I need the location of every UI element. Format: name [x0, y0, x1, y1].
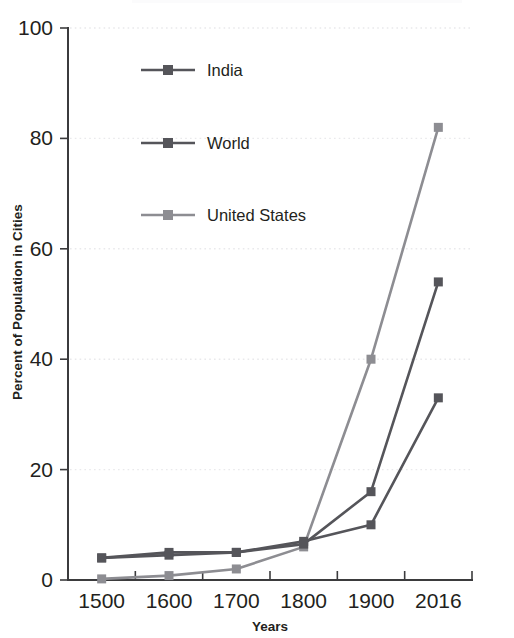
series-line-india	[102, 398, 439, 558]
chart-figure: 020406080100 150016001700180019002016 Pe…	[0, 0, 514, 638]
series-line-united-states	[102, 127, 439, 579]
series-line-world	[102, 282, 439, 558]
data-point-marker	[434, 393, 443, 402]
y-tick-label: 100	[18, 16, 53, 39]
data-point-marker	[434, 123, 443, 132]
data-point-marker	[434, 277, 443, 286]
y-tick-label: 0	[41, 568, 53, 591]
data-point-marker	[232, 564, 241, 573]
legend-swatch-marker	[163, 138, 173, 148]
legend-label: India	[207, 61, 244, 79]
data-point-marker	[165, 551, 174, 560]
data-point-marker	[367, 487, 376, 496]
x-tick-label: 1900	[348, 589, 395, 612]
x-tick-label: 1500	[78, 589, 125, 612]
y-tick-label: 60	[30, 237, 53, 260]
y-axis-ticks	[60, 28, 68, 580]
y-tick-label: 40	[30, 347, 53, 370]
legend-label: World	[207, 134, 250, 152]
data-point-marker	[299, 540, 308, 549]
line-chart: 020406080100 150016001700180019002016 Pe…	[0, 0, 514, 638]
data-point-marker	[165, 571, 174, 580]
data-point-marker	[367, 520, 376, 529]
gridlines	[70, 28, 472, 470]
data-point-marker	[97, 574, 106, 583]
x-axis-tick-labels: 150016001700180019002016	[78, 589, 461, 612]
legend-swatch-marker	[163, 65, 173, 75]
legend-label: United States	[207, 206, 306, 224]
y-axis-title: Percent of Population in Cities	[10, 204, 25, 400]
legend-swatch-marker	[163, 210, 173, 220]
x-axis-title: Years	[252, 619, 288, 634]
y-tick-label: 20	[30, 458, 53, 481]
y-tick-label: 80	[30, 126, 53, 149]
x-tick-label: 1800	[280, 589, 327, 612]
data-point-marker	[367, 355, 376, 364]
x-axis-ticks	[135, 571, 472, 580]
x-tick-label: 2016	[415, 589, 462, 612]
x-tick-label: 1700	[213, 589, 260, 612]
x-tick-label: 1600	[146, 589, 193, 612]
data-point-marker	[97, 553, 106, 562]
data-point-marker	[232, 548, 241, 557]
data-series	[97, 123, 443, 584]
chart-legend: IndiaWorldUnited States	[141, 61, 306, 224]
